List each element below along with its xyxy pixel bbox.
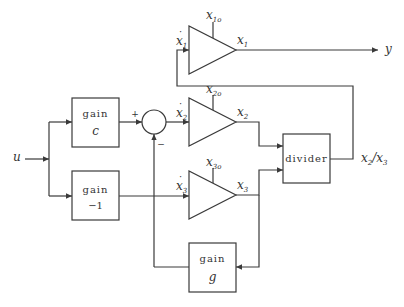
summer-plus-sign: +: [131, 109, 139, 119]
block-diagram: u gain c gain −1 + − x1o x1 · x1 x2o x2 …: [0, 0, 404, 307]
svg-text:·: ·: [179, 98, 182, 109]
svg-text:x2: x2: [237, 105, 249, 121]
gain-neg1-label: gain: [82, 184, 108, 195]
wire-x2-to-divider: [236, 122, 283, 146]
svg-text:x3: x3: [237, 178, 249, 194]
wire-x3-to-gain-g: [236, 195, 259, 267]
svg-text:·: ·: [179, 26, 182, 37]
svg-text:x2o: x2o: [206, 82, 221, 98]
input-label-u: u: [13, 150, 21, 164]
integrator-3: x3o x3 · x3: [176, 155, 249, 219]
gain-g-label: gain: [199, 253, 225, 264]
svg-text:x1o: x1o: [206, 8, 221, 24]
divider-label: divider: [285, 153, 328, 164]
svg-text:x3o: x3o: [206, 155, 221, 171]
svg-text:x1: x1: [237, 33, 248, 49]
integrator-1: x1o x1 · x1: [176, 8, 248, 74]
gain-c-block: gain c: [72, 98, 119, 147]
gain-c-value: c: [92, 124, 99, 138]
gain-g-block: gain g: [189, 243, 236, 292]
integrator-2: x2o x2 · x2: [176, 82, 249, 146]
divider-block: divider: [283, 134, 330, 183]
summing-junction: [142, 110, 166, 134]
gain-g-value: g: [209, 270, 217, 284]
summer-minus-sign: −: [157, 139, 165, 149]
svg-text:·: ·: [179, 171, 182, 182]
gain-neg1-block: gain −1: [72, 171, 119, 220]
gain-neg1-value: −1: [88, 200, 103, 211]
gain-c-label: gain: [82, 108, 108, 119]
divider-output-label: x2/x3: [361, 151, 388, 167]
output-label-y: y: [384, 42, 392, 56]
